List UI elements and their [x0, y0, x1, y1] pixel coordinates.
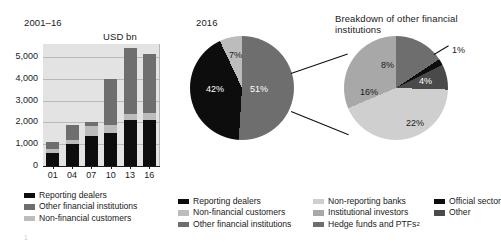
gridline	[43, 79, 159, 80]
x-tick	[111, 166, 112, 169]
gridline	[43, 101, 159, 102]
bar-segment	[85, 126, 98, 135]
legend-swatch	[434, 210, 445, 216]
x-tick-label: 16	[144, 170, 154, 180]
legend-swatch	[313, 222, 324, 228]
x-tick-label: 13	[125, 170, 135, 180]
middle-panel-title: 2016	[196, 17, 218, 28]
bar-segment	[124, 48, 137, 113]
bar-column	[85, 44, 98, 166]
legend-item: Non-financial customers	[178, 207, 291, 218]
pie-slice-label: 7%	[229, 50, 242, 60]
legend-item: Institutional investors	[313, 207, 420, 218]
y-tick-label: 1,000	[15, 138, 43, 148]
legend-label: Other financial institutions	[39, 201, 137, 212]
legend-swatch	[434, 199, 445, 205]
legend-item: Reporting dealers	[24, 190, 137, 201]
bar-chart: 01,0002,0003,0004,0005,000 010407101316	[0, 44, 175, 174]
bar-segment	[104, 125, 117, 134]
legend-swatch	[313, 210, 324, 216]
bar-segment	[46, 142, 59, 149]
legend-label: Non-financial customers	[193, 207, 285, 218]
x-tick-label: 10	[106, 170, 116, 180]
legend-label: Reporting dealers	[193, 196, 261, 207]
x-axis-line	[43, 166, 160, 167]
legend-pie-column-c: Official sectorOther	[434, 196, 501, 219]
legend-label: Non-reporting banks	[328, 196, 406, 207]
bar-column	[124, 44, 137, 166]
legend-superscript: 2	[416, 219, 419, 230]
y-tick-label: 2,000	[15, 116, 43, 126]
gridline	[43, 122, 159, 123]
pie-slice-label: 22%	[406, 118, 424, 128]
legend-item: Reporting dealers	[178, 196, 291, 207]
bar-column	[66, 44, 79, 166]
legend-item: Non-financial customers	[24, 213, 137, 224]
legend-swatch	[24, 204, 35, 210]
bar-segment	[66, 125, 79, 140]
bar-segment	[124, 120, 137, 166]
y-tick-label: 5,000	[15, 51, 43, 61]
legend-swatch	[313, 199, 324, 205]
legend-item: Other	[434, 207, 501, 218]
bar-column	[104, 44, 117, 166]
pie-slice-label: 51%	[250, 84, 268, 94]
legend-label: Institutional investors	[328, 207, 408, 218]
y-tick-label: 0	[33, 160, 43, 170]
legend-item: Other financial institutions	[24, 201, 137, 212]
connector-line-upper	[291, 54, 348, 75]
x-tick	[130, 166, 131, 169]
legend-swatch	[24, 193, 35, 199]
pie-slice-label: 8%	[381, 60, 394, 70]
bar-segment	[143, 120, 156, 166]
legend-item: Official sector	[434, 196, 501, 207]
legend-pie-column-b: Non-reporting banksInstitutional investo…	[313, 196, 420, 230]
x-tick-label: 04	[67, 170, 77, 180]
legend-item: Non-reporting banks	[313, 196, 420, 207]
legend-label: Other financial institutions	[193, 219, 291, 230]
legend-swatch	[178, 199, 189, 205]
y-tick-label: 3,000	[15, 95, 43, 105]
legend-label: Official sector	[449, 196, 501, 207]
gridline	[43, 57, 159, 58]
legend-swatch	[24, 216, 35, 222]
y-axis-unit-label: USD bn	[103, 31, 137, 42]
footnote-marker: 1	[24, 234, 28, 242]
y-tick-label: 4,000	[15, 73, 43, 83]
x-tick-label: 01	[48, 170, 58, 180]
left-panel-title: 2001–16	[24, 17, 62, 28]
pie-slice-label: 16%	[360, 87, 378, 97]
legend-swatch	[178, 210, 189, 216]
bar-segment	[46, 153, 59, 166]
legend-swatch	[178, 222, 189, 228]
legend-pie-column-a: Reporting dealersNon-financial customers…	[178, 196, 291, 230]
right-panel-title: Breakdown of other financial institution…	[335, 13, 475, 35]
x-tick	[53, 166, 54, 169]
bar-segment	[85, 136, 98, 167]
bar-segment	[66, 144, 79, 166]
pie-slice-label: 4%	[419, 76, 432, 86]
bar-column	[46, 44, 59, 166]
legend-label: Hedge funds and PTFs	[328, 219, 416, 230]
x-tick	[91, 166, 92, 169]
bar-segment	[104, 133, 117, 166]
pie-slice-label: 1%	[452, 45, 465, 55]
x-tick-label: 07	[86, 170, 96, 180]
bar-segment	[104, 79, 117, 125]
legend-item: Other financial institutions	[178, 219, 291, 230]
legend-item: Hedge funds and PTFs2	[313, 219, 420, 230]
bar-column	[143, 44, 156, 166]
bar-segment	[143, 113, 156, 120]
x-tick	[72, 166, 73, 169]
bar-segment	[143, 54, 156, 113]
pie-slice-label: 42%	[206, 84, 224, 94]
legend-bar-chart: Reporting dealersOther financial institu…	[24, 190, 137, 224]
legend-label: Reporting dealers	[39, 190, 107, 201]
gridline	[43, 144, 159, 145]
x-tick	[149, 166, 150, 169]
pie-leader-line	[434, 45, 449, 55]
legend-label: Non-financial customers	[39, 213, 131, 224]
legend-label: Other	[449, 207, 471, 218]
connector-line-lower	[291, 111, 349, 136]
